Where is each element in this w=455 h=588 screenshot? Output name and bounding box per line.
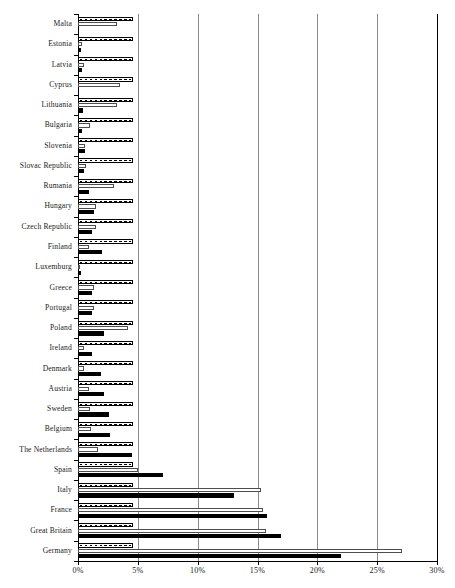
bar-series-black-poland — [78, 331, 104, 335]
bar-series-white-finland — [78, 245, 89, 249]
x-tick-15pct — [258, 561, 259, 565]
bar-series-checkered-france — [78, 503, 133, 507]
bar-series-white-spain — [78, 468, 138, 472]
country-label-italy: Italy — [0, 486, 72, 494]
plot-area — [78, 14, 437, 561]
country-label-portugal: Portugal — [0, 304, 72, 312]
bar-series-black-latvia — [78, 68, 82, 72]
country-label-estonia: Estonia — [0, 40, 72, 48]
bar-series-checkered-slovac-republic — [78, 158, 133, 162]
country-label-rumania: Rumania — [0, 182, 72, 190]
bar-series-black-finland — [78, 250, 102, 254]
bar-series-checkered-austria — [78, 381, 133, 385]
bar-series-black-rumania — [78, 190, 89, 194]
bar-series-white-greece — [78, 285, 94, 289]
bar-series-black-bulgaria — [78, 129, 82, 133]
x-tick-10pct — [198, 561, 199, 565]
bar-series-black-great-britain — [78, 534, 281, 538]
bar-series-black-estonia — [78, 48, 81, 52]
country-label-poland: Poland — [0, 324, 72, 332]
bar-series-white-luxemburg — [78, 265, 80, 269]
bar-series-white-slovenia — [78, 144, 85, 148]
country-label-austria: Austria — [0, 385, 72, 393]
x-tick-label: 25% — [357, 566, 397, 576]
x-tick-30pct — [437, 561, 438, 565]
bar-series-black-czech-republic — [78, 230, 92, 234]
bar-series-checkered-germany — [78, 543, 133, 547]
bar-series-checkered-poland — [78, 321, 133, 325]
bar-series-checkered-latvia — [78, 57, 133, 61]
bar-series-black-malta — [78, 27, 79, 31]
bar-series-white-germany — [78, 549, 402, 553]
x-tick-label: 20% — [297, 566, 337, 576]
country-label-spain: Spain — [0, 466, 72, 474]
country-label-slovac-republic: Slovac Republic — [0, 162, 72, 170]
x-tick-label: 5% — [118, 566, 158, 576]
country-label-the-netherlands: The Netherlands — [0, 446, 72, 454]
bar-series-white-malta — [78, 22, 117, 26]
x-tick-label: 0% — [58, 566, 98, 576]
bar-series-checkered-bulgaria — [78, 118, 133, 122]
bar-series-black-austria — [78, 392, 104, 396]
bar-series-black-denmark — [78, 372, 101, 376]
bar-series-white-cyprus — [78, 83, 120, 87]
bar-series-checkered-rumania — [78, 179, 133, 183]
gridline-30pct — [437, 14, 438, 562]
bar-series-checkered-greece — [78, 280, 133, 284]
bar-series-white-lithuania — [78, 103, 117, 107]
country-label-finland: Finland — [0, 243, 72, 251]
bar-series-black-sweden — [78, 412, 109, 416]
bar-series-checkered-portugal — [78, 300, 133, 304]
bar-series-checkered-the-netherlands — [78, 442, 133, 446]
bar-chart: MaltaEstoniaLatviaCyprusLithuaniaBulgari… — [0, 0, 455, 588]
bar-series-white-austria — [78, 387, 89, 391]
country-label-great-britain: Great Britain — [0, 527, 72, 535]
country-label-slovenia: Slovenia — [0, 142, 72, 150]
country-label-germany: Germany — [0, 547, 72, 555]
bar-series-white-france — [78, 508, 263, 512]
bar-series-white-denmark — [78, 366, 84, 370]
country-label-hungary: Hungary — [0, 202, 72, 210]
bar-series-white-sweden — [78, 407, 90, 411]
bar-series-checkered-belgium — [78, 422, 133, 426]
bar-series-black-spain — [78, 473, 163, 477]
bar-series-white-portugal — [78, 306, 94, 310]
country-label-czech-republic: Czech Republic — [0, 223, 72, 231]
bar-series-checkered-spain — [78, 462, 133, 466]
country-label-bulgaria: Bulgaria — [0, 121, 72, 129]
bar-series-checkered-cyprus — [78, 77, 133, 81]
x-tick-label: 15% — [238, 566, 278, 576]
bar-series-black-france — [78, 514, 267, 518]
bar-series-black-germany — [78, 554, 341, 558]
bar-series-checkered-estonia — [78, 37, 133, 41]
x-tick-5pct — [138, 561, 139, 565]
bar-series-checkered-italy — [78, 483, 133, 487]
bar-series-black-italy — [78, 493, 234, 497]
bar-series-black-lithuania — [78, 108, 83, 112]
bar-series-white-poland — [78, 326, 128, 330]
bar-series-black-ireland — [78, 352, 92, 356]
bar-series-white-estonia — [78, 42, 82, 46]
bar-series-checkered-denmark — [78, 361, 133, 365]
bar-series-white-ireland — [78, 346, 84, 350]
country-label-ireland: Ireland — [0, 344, 72, 352]
x-axis-tick-labels: 0%5%10%15%20%25%30% — [0, 566, 455, 580]
bar-series-black-slovac-republic — [78, 169, 84, 173]
country-label-greece: Greece — [0, 284, 72, 292]
country-label-denmark: Denmark — [0, 365, 72, 373]
country-label-sweden: Sweden — [0, 405, 72, 413]
bar-series-black-hungary — [78, 210, 94, 214]
country-label-france: France — [0, 506, 72, 514]
bar-series-checkered-great-britain — [78, 523, 133, 527]
country-label-latvia: Latvia — [0, 61, 72, 69]
bar-series-black-belgium — [78, 433, 110, 437]
bar-series-checkered-sweden — [78, 402, 133, 406]
bar-series-white-belgium — [78, 427, 91, 431]
country-label-lithuania: Lithuania — [0, 101, 72, 109]
bar-series-checkered-ireland — [78, 341, 133, 345]
bar-series-white-great-britain — [78, 529, 266, 533]
bar-series-black-portugal — [78, 311, 92, 315]
bar-series-white-slovac-republic — [78, 164, 86, 168]
bar-series-black-cyprus — [78, 88, 79, 92]
bar-series-white-hungary — [78, 204, 96, 208]
